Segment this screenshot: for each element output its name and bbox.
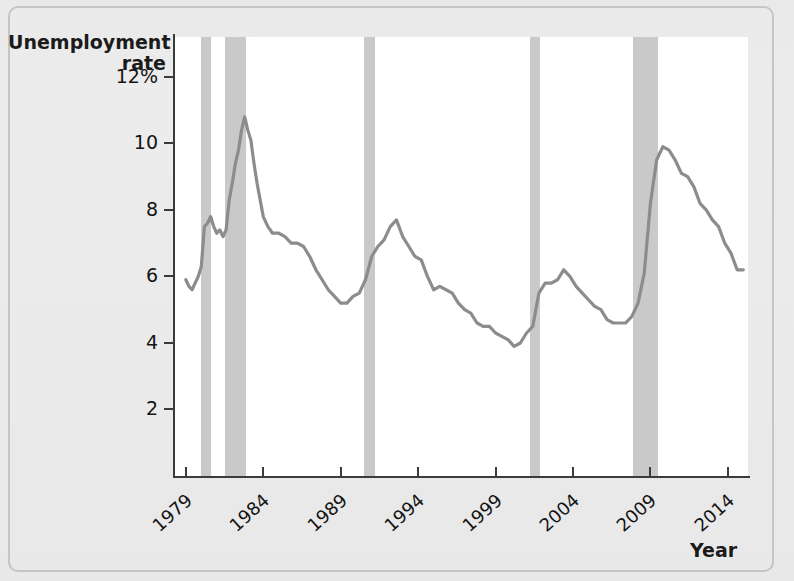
y-axis-tick-label: 6 bbox=[88, 264, 158, 286]
y-axis-tick bbox=[164, 142, 175, 144]
y-axis-tick-label: 8 bbox=[88, 198, 158, 220]
unemployment-rate-chart: Unemployment rate 24681012% 197919841989… bbox=[0, 0, 794, 581]
x-axis-tick-label: 2009 bbox=[612, 489, 660, 535]
y-axis-tick bbox=[164, 408, 175, 410]
x-axis-line bbox=[173, 476, 750, 478]
x-axis-tick-label: 1979 bbox=[148, 489, 196, 535]
y-axis-line bbox=[173, 34, 175, 478]
y-axis-title-line1: Unemployment bbox=[8, 31, 170, 53]
y-axis-tick-label: 2 bbox=[88, 397, 158, 419]
x-axis-tick-label: 2014 bbox=[690, 489, 738, 535]
x-axis-tick-label: 1984 bbox=[225, 489, 273, 535]
x-axis-tick-label: 2004 bbox=[535, 489, 583, 535]
y-axis-tick-label: 10 bbox=[88, 131, 158, 153]
x-axis-tick bbox=[262, 467, 264, 478]
x-axis-tick bbox=[727, 467, 729, 478]
unemployment-line-series bbox=[175, 37, 748, 476]
x-axis-tick bbox=[417, 467, 419, 478]
x-axis-tick-label: 1999 bbox=[458, 489, 506, 535]
x-axis-title: Year bbox=[690, 540, 737, 561]
y-axis-tick bbox=[164, 275, 175, 277]
x-axis-tick bbox=[185, 467, 187, 478]
x-axis-tick-label: 1989 bbox=[303, 489, 351, 535]
y-axis-tick bbox=[164, 209, 175, 211]
x-axis-tick bbox=[340, 467, 342, 478]
x-axis-tick-label: 1994 bbox=[380, 489, 428, 535]
x-axis-tick bbox=[495, 467, 497, 478]
y-axis-tick bbox=[164, 76, 175, 78]
y-axis-tick bbox=[164, 342, 175, 344]
plot-area bbox=[175, 37, 748, 476]
y-axis-tick-label: 12% bbox=[88, 65, 158, 87]
x-axis-tick bbox=[649, 467, 651, 478]
y-axis-tick-label: 4 bbox=[88, 331, 158, 353]
x-axis-tick bbox=[572, 467, 574, 478]
